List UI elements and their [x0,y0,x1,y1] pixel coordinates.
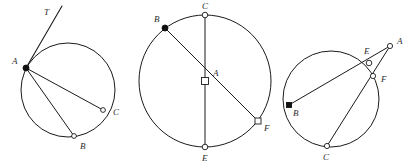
point-marker-c-1 [101,108,106,113]
point-label-b-3: B [293,108,299,118]
diagram-3-group: A B C E F [283,36,403,162]
geometry-figure: A B C T A B C E F [0,0,411,167]
point-label-a-1: A [11,56,18,66]
chord-a-b-1 [26,68,74,136]
point-label-f-2: F [263,123,270,133]
point-label-t-1: T [44,7,50,17]
diagram-1-group: A B C T [11,6,120,151]
point-marker-c-3 [324,143,329,148]
circle-outline-1 [21,43,115,137]
point-marker-f-3 [370,73,375,78]
point-marker-c-2 [202,12,208,18]
point-label-e-2: E [201,153,208,163]
chord-b-f-2 [165,28,258,121]
point-label-c-2: C [202,1,209,11]
point-marker-f-2 [255,118,261,124]
point-marker-a-1 [23,65,29,71]
point-label-e-3: E [363,46,370,56]
point-label-a-2: A [212,68,219,78]
point-marker-a-3 [387,43,392,48]
point-marker-a-2 [202,78,209,85]
point-marker-b-1 [72,134,77,139]
point-marker-e-2 [202,144,208,150]
diagram-2-group: A B C E F [139,1,271,163]
point-label-c-3: C [323,152,330,162]
point-label-b-2: B [154,14,160,24]
point-marker-b-3 [287,103,292,108]
point-label-c-1: C [113,107,120,117]
circle-outline-3 [283,51,379,147]
point-label-b-1: B [80,141,86,151]
secant-a-c-3 [327,46,390,146]
point-label-a-3: A [396,36,403,46]
chord-a-c-1 [26,68,103,110]
point-label-f-3: F [380,74,387,84]
point-marker-b-2 [162,25,168,31]
point-marker-e-3 [366,60,372,66]
figure-canvas: A B C T A B C E F [0,0,411,167]
